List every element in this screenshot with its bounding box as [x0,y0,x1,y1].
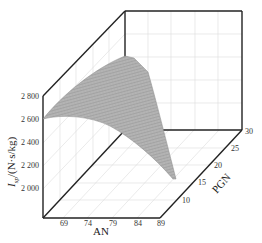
z-axis-label: Isp/(N·s/kg) [6,137,20,187]
chart-canvas [0,0,262,243]
x-tick: 74 [84,220,92,228]
z-label-sub: sp [12,177,20,183]
z-label-rest: /(N·s/kg) [5,137,17,177]
z-label-main: I [5,183,17,187]
x-tick: 69 [60,220,68,228]
y-tick: 25 [231,145,239,153]
x-tick: 89 [157,220,165,228]
x-tick: 79 [109,220,117,228]
surface-chart: 2 800 2 600 2 400 2 200 2 000 Isp/(N·s/k… [0,0,262,243]
x-tick: 84 [134,220,142,228]
z-tick: 2 600 [9,116,39,124]
x-axis-label: AN [93,226,109,237]
y-tick: 20 [214,162,222,170]
y-tick: 10 [182,197,190,205]
y-tick: 15 [198,179,206,187]
z-tick: 2 800 [9,93,39,101]
y-tick: 30 [245,128,253,136]
